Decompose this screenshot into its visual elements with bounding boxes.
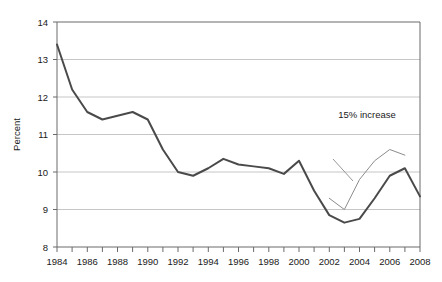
- y-tick-label-10: 10: [37, 167, 48, 178]
- y-axis-title: Percent: [11, 118, 22, 151]
- annotation-label-15-percent-increase: 15% increase: [338, 109, 396, 120]
- x-tick-label-1998: 1998: [258, 256, 279, 267]
- y-tick-label-12: 12: [37, 92, 48, 103]
- x-tick-label-1984: 1984: [46, 256, 67, 267]
- x-tick-label-2002: 2002: [319, 256, 340, 267]
- x-tick-label-2004: 2004: [349, 256, 370, 267]
- y-tick-label-13: 13: [37, 54, 48, 65]
- chart-container: 14 13 12 11 10 9 8 Percent: [0, 0, 442, 282]
- y-tick-label-8: 8: [43, 242, 48, 253]
- line-chart: 14 13 12 11 10 9 8 Percent: [0, 0, 442, 282]
- x-tick-label-1994: 1994: [198, 256, 219, 267]
- y-tick-label-9: 9: [43, 204, 48, 215]
- x-tick-label-1988: 1988: [107, 256, 128, 267]
- x-tick-label-2006: 2006: [379, 256, 400, 267]
- x-tick-label-1990: 1990: [137, 256, 158, 267]
- x-tick-label-2008: 2008: [409, 256, 430, 267]
- y-tick-label-11: 11: [38, 129, 48, 140]
- chart-background: [0, 0, 442, 282]
- x-tick-label-1996: 1996: [228, 256, 249, 267]
- x-tick-label-1986: 1986: [77, 256, 98, 267]
- x-tick-label-2000: 2000: [288, 256, 309, 267]
- x-tick-label-1992: 1992: [167, 256, 188, 267]
- y-tick-label-14: 14: [37, 17, 48, 28]
